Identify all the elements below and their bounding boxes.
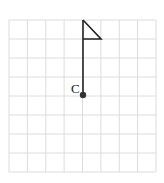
grid-diagram: C	[0, 0, 164, 183]
flag-triangle	[83, 20, 101, 39]
point-label: C	[71, 81, 80, 96]
point-c	[80, 92, 86, 98]
